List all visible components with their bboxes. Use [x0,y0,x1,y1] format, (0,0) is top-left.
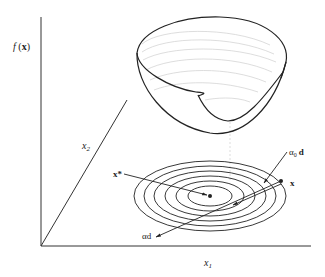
x1-label: x1 [203,257,212,270]
alpha-d-label: αd [142,231,152,241]
optimization-diagram: f (x) x2 x1 [0,0,325,277]
x-star-label: x* [113,169,123,179]
bowl-surface [137,17,286,180]
alpha0-d-label: α0d [289,147,304,158]
x-point-label: x [290,178,295,188]
alpha-d-segment [233,184,281,205]
axes [41,17,311,246]
minimum-point [208,194,212,198]
f-x-label: f (x) [13,41,30,53]
direction-line [156,181,281,237]
x2-label: x2 [81,140,90,153]
